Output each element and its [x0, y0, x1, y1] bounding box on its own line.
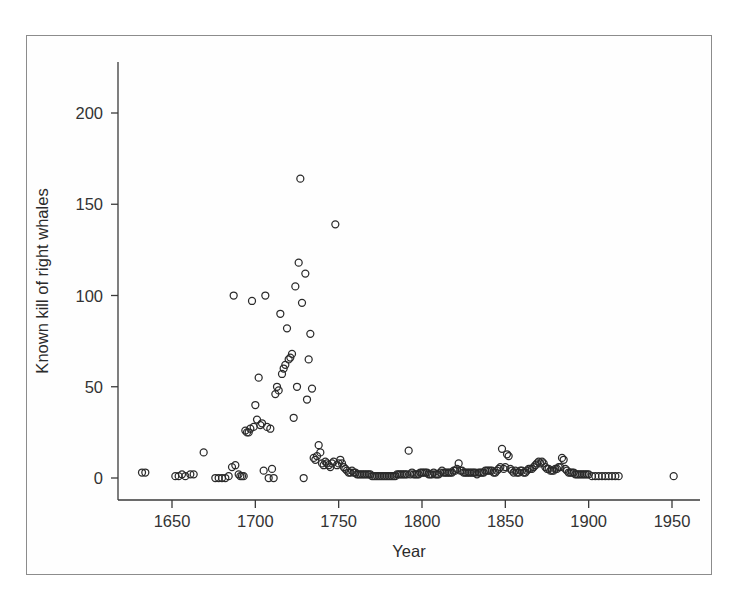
scatter-point [307, 330, 314, 337]
scatter-point [269, 465, 276, 472]
scatter-point [292, 283, 299, 290]
scatter-point [290, 414, 297, 421]
scatter-point [315, 442, 322, 449]
figure-container: 050100150200 165017001750180018501900195… [0, 0, 736, 603]
y-tick-label: 200 [75, 104, 103, 122]
scatter-point [249, 297, 256, 304]
scatter-point [405, 447, 412, 454]
y-axis-ticks: 050100150200 [75, 104, 118, 487]
x-tick-label: 1950 [654, 512, 691, 530]
scatter-point [302, 270, 309, 277]
scatter-point [305, 356, 312, 363]
scatter-point [295, 259, 302, 266]
scatter-point [560, 456, 567, 463]
x-tick-label: 1850 [487, 512, 524, 530]
y-axis-title: Known kill of right whales [33, 188, 51, 373]
scatter-point [309, 385, 316, 392]
x-tick-label: 1700 [237, 512, 274, 530]
scatter-point [200, 449, 207, 456]
x-axis-ticks: 1650170017501800185019001950 [154, 500, 691, 530]
scatter-point [300, 475, 307, 482]
x-axis-title: Year [392, 542, 426, 560]
scatter-point [255, 374, 262, 381]
scatter-point [260, 467, 267, 474]
scatter-point [277, 310, 284, 317]
scatter-point [257, 422, 264, 429]
scatter-point [559, 454, 566, 461]
x-tick-label: 1650 [154, 512, 191, 530]
scatter-point [262, 292, 269, 299]
scatter-point [259, 420, 266, 427]
y-tick-label: 150 [75, 195, 103, 213]
scatter-point [230, 292, 237, 299]
scatter-point [252, 402, 259, 409]
scatter-point [270, 475, 277, 482]
x-tick-label: 1800 [404, 512, 441, 530]
scatter-point [670, 473, 677, 480]
scatter-point [304, 396, 311, 403]
y-tick-label: 50 [85, 378, 103, 396]
scatter-point [332, 221, 339, 228]
y-tick-label: 100 [75, 287, 103, 305]
scatter-point [505, 453, 512, 460]
scatter-point [294, 383, 301, 390]
scatter-point [504, 451, 511, 458]
scatter-point [299, 299, 306, 306]
scatter-plot: 050100150200 165017001750180018501900195… [0, 0, 736, 603]
scatter-point [284, 325, 291, 332]
x-tick-label: 1900 [570, 512, 607, 530]
x-tick-label: 1750 [320, 512, 357, 530]
y-tick-label: 0 [94, 469, 103, 487]
scatter-point [297, 175, 304, 182]
data-points [139, 175, 678, 481]
